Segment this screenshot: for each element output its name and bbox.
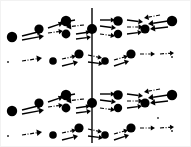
lattice-site bbox=[34, 98, 43, 107]
moment-arrow-shaft bbox=[88, 129, 98, 131]
moment-arrow-shaft bbox=[76, 112, 87, 113]
moment-arrow-shaft bbox=[22, 133, 37, 135]
moment-arrow-shaft bbox=[48, 98, 59, 102]
moment-arrow-shaft bbox=[153, 95, 168, 97]
lattice-site bbox=[167, 90, 177, 100]
lattice-site bbox=[167, 16, 177, 26]
moment-arrow-shaft bbox=[155, 101, 168, 102]
moment-arrow-shaft bbox=[48, 24, 59, 28]
moment-arrow-shaft bbox=[127, 33, 138, 34]
moment-arrow-head bbox=[86, 35, 91, 40]
lattice-site bbox=[49, 131, 57, 139]
moment-arrow-head bbox=[36, 56, 42, 62]
moment-arrow-head bbox=[73, 60, 78, 66]
moment-arrow-shaft bbox=[100, 26, 112, 27]
moment-arrow-shaft bbox=[100, 34, 111, 35]
lattice-site bbox=[61, 90, 71, 100]
lattice-site bbox=[74, 123, 83, 132]
lattice-site bbox=[34, 24, 43, 33]
moment-arrow-shaft bbox=[114, 62, 125, 66]
moment-arrow-head bbox=[170, 125, 174, 130]
moment-arrow-head bbox=[38, 34, 44, 40]
moment-arrow-layer bbox=[22, 14, 174, 140]
moment-arrow-shaft bbox=[22, 37, 39, 40]
lattice-site bbox=[49, 57, 57, 65]
moment-arrow-shaft bbox=[114, 136, 125, 140]
moment-arrow-shaft bbox=[88, 136, 99, 137]
moment-arrow-shaft bbox=[71, 99, 84, 100]
background-speck-layer bbox=[7, 56, 173, 137]
moment-arrow-shaft bbox=[76, 107, 86, 108]
moment-arrow-shaft bbox=[127, 107, 138, 108]
spin-texture-figure: Magnetic domain spin-texture lattice dom… bbox=[0, 0, 191, 147]
moment-arrow-shaft bbox=[62, 57, 72, 59]
moment-arrow-head bbox=[170, 51, 174, 56]
moment-arrow-head bbox=[36, 130, 42, 136]
moment-arrow-shaft bbox=[48, 32, 59, 33]
moment-arrow-shaft bbox=[88, 62, 99, 63]
moment-arrow-head bbox=[111, 99, 116, 105]
moment-arrow-head bbox=[111, 25, 116, 31]
moment-arrow-shaft bbox=[22, 32, 37, 36]
lattice-site bbox=[114, 30, 122, 38]
moment-arrow-shaft bbox=[160, 53, 170, 54]
moment-arrow-shaft bbox=[160, 127, 170, 128]
moment-arrow-shaft bbox=[62, 63, 74, 66]
lattice-site bbox=[101, 131, 109, 139]
background-speck bbox=[171, 56, 173, 58]
moment-arrow-shaft bbox=[100, 108, 111, 109]
moment-arrow-shaft bbox=[127, 94, 139, 95]
moment-arrow-shaft bbox=[22, 106, 37, 110]
moment-arrow-head bbox=[144, 14, 149, 20]
lattice-site bbox=[74, 49, 83, 58]
moment-arrow-shaft bbox=[88, 55, 98, 57]
lattice-site bbox=[7, 106, 17, 116]
lattice-site bbox=[87, 98, 97, 108]
lattice-site bbox=[140, 24, 149, 33]
moment-arrow-head bbox=[151, 125, 155, 130]
lattice-site bbox=[113, 16, 123, 26]
moment-arrow-head bbox=[148, 94, 154, 100]
moment-arrow-shaft bbox=[100, 100, 112, 101]
moment-arrow-head bbox=[98, 55, 102, 60]
background-speck bbox=[157, 117, 159, 119]
moment-arrow-shaft bbox=[71, 25, 84, 26]
lattice-site bbox=[62, 30, 71, 39]
lattice-site bbox=[126, 123, 135, 132]
lattice-site bbox=[7, 32, 17, 42]
moment-arrow-head bbox=[73, 134, 78, 140]
lattice-site bbox=[101, 57, 109, 65]
moment-arrow-head bbox=[138, 93, 143, 99]
moment-arrow-head bbox=[144, 88, 149, 94]
moment-arrow-shaft bbox=[148, 89, 160, 91]
background-speck bbox=[171, 130, 173, 132]
moment-arrow-head bbox=[38, 108, 44, 114]
moment-arrow-shaft bbox=[114, 131, 124, 134]
lattice-site bbox=[113, 90, 123, 100]
moment-arrow-shaft bbox=[114, 57, 124, 60]
moment-arrow-shaft bbox=[76, 38, 87, 39]
moment-arrow-shaft bbox=[22, 111, 39, 114]
moment-arrow-head bbox=[150, 25, 155, 31]
lattice-site bbox=[114, 104, 122, 112]
moment-arrow-shaft bbox=[48, 106, 59, 107]
moment-arrow-head bbox=[98, 129, 102, 134]
lattice-site bbox=[140, 98, 149, 107]
moment-arrow-head bbox=[148, 20, 154, 26]
moment-arrow-shaft bbox=[22, 59, 37, 61]
lattice-site bbox=[61, 16, 71, 26]
moment-arrow-shaft bbox=[155, 27, 168, 28]
moment-arrow-shaft bbox=[62, 131, 72, 133]
moment-arrow-head bbox=[151, 51, 155, 56]
lattice-site bbox=[126, 49, 135, 58]
background-speck bbox=[7, 61, 9, 63]
moment-arrow-head bbox=[150, 99, 155, 105]
moment-arrow-head bbox=[86, 109, 91, 114]
vector-field-canvas bbox=[0, 0, 191, 147]
lattice-site bbox=[87, 24, 97, 34]
moment-arrow-shaft bbox=[62, 137, 74, 140]
moment-arrow-shaft bbox=[153, 21, 168, 23]
background-speck bbox=[7, 135, 9, 137]
moment-arrow-shaft bbox=[127, 20, 139, 21]
moment-arrow-shaft bbox=[76, 33, 86, 34]
